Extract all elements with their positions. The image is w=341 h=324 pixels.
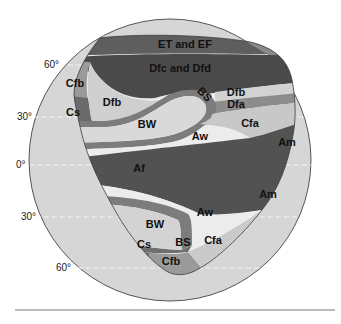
label-am-north: Am bbox=[278, 136, 296, 148]
label-et-ef: ET and EF bbox=[158, 38, 212, 50]
label-cfb-north: Cfb bbox=[66, 77, 85, 89]
latitude-label-0: 0° bbox=[16, 159, 26, 170]
label-cfb-south: Cfb bbox=[162, 255, 181, 267]
label-am-south: Am bbox=[259, 188, 277, 200]
label-cfa-south: Cfa bbox=[204, 234, 223, 246]
latitude-label-30s: 30° bbox=[21, 211, 36, 222]
label-dfb-east: Dfb bbox=[227, 86, 246, 98]
climate-diagram: ET and EF Dfc and Dfd Cfb Cs Dfb BS Dfb … bbox=[0, 0, 341, 324]
label-aw-north: Aw bbox=[192, 130, 209, 142]
label-cs-north: Cs bbox=[66, 106, 80, 118]
label-af: Af bbox=[133, 162, 145, 174]
label-cs-south: Cs bbox=[137, 238, 151, 250]
label-cfa-north: Cfa bbox=[241, 117, 260, 129]
latitude-label-60n: 60° bbox=[44, 59, 59, 70]
label-dfa: Dfa bbox=[227, 98, 246, 110]
label-aw-south: Aw bbox=[197, 206, 214, 218]
label-dfc-dfd: Dfc and Dfd bbox=[149, 62, 211, 74]
label-dfb-west: Dfb bbox=[103, 96, 122, 108]
label-bs-south: BS bbox=[175, 236, 190, 248]
label-bw-south: BW bbox=[146, 218, 165, 230]
label-bw-north: BW bbox=[138, 118, 157, 130]
latitude-label-30n: 30° bbox=[17, 111, 32, 122]
latitude-label-60s: 60° bbox=[56, 262, 71, 273]
